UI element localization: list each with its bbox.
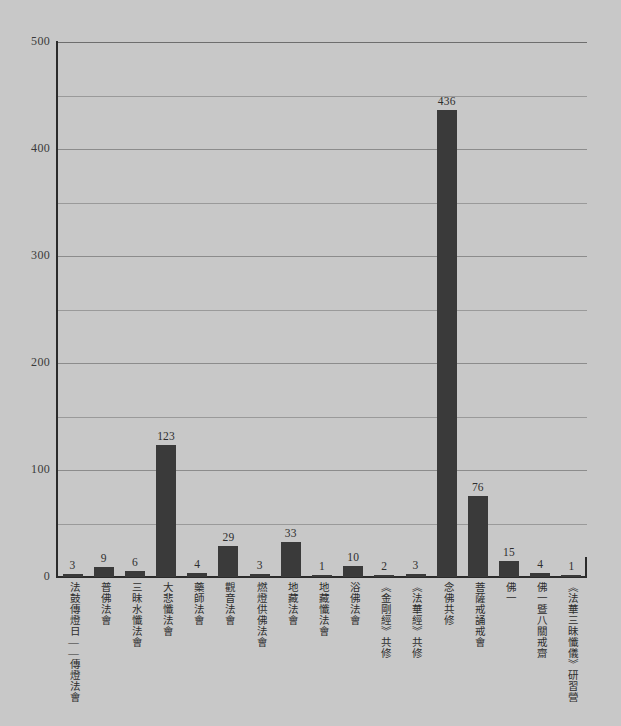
y-axis-tick-label-500: 500 xyxy=(2,34,50,49)
x-axis-label-text: 三昧水懺法會 xyxy=(129,582,140,648)
bar xyxy=(125,571,145,577)
y-axis-tick-label-0: 0 xyxy=(2,569,50,584)
x-axis-label-text: 藥師法會 xyxy=(192,582,203,626)
x-axis-label: 普佛法會 xyxy=(88,582,119,630)
x-axis-label: 佛一 xyxy=(493,582,524,608)
x-axis-label-text: 地藏懺法會 xyxy=(317,582,328,637)
bar xyxy=(406,574,426,577)
bar-value-label: 3 xyxy=(244,559,275,571)
x-axis-category-labels: 法鼓傳燈日——傳燈法會普佛法會三昧水懺法會大悲懺法會藥師法會觀音法會燃燈供佛法會… xyxy=(57,582,587,726)
bar xyxy=(63,574,83,577)
x-axis-label: 燃燈供佛法會 xyxy=(244,582,275,652)
bar xyxy=(250,574,270,577)
x-axis-label: 大悲懺法會 xyxy=(151,582,182,641)
y-axis-tick-label-200: 200 xyxy=(2,355,50,370)
bar-column: 2 xyxy=(369,42,400,577)
bar xyxy=(468,496,488,577)
y-axis-tick-label-300: 300 xyxy=(2,248,50,263)
bar-value-label: 436 xyxy=(431,95,462,107)
bar-column: 123 xyxy=(151,42,182,577)
bar-value-label: 76 xyxy=(462,481,493,493)
bar-series: 39612342933311023436761541 xyxy=(57,42,587,577)
x-axis-label-text: 地藏法會 xyxy=(285,582,296,626)
bar-column: 1 xyxy=(306,42,337,577)
x-axis-label: 地藏懺法會 xyxy=(306,582,337,641)
x-axis-label: 法鼓傳燈日——傳燈法會 xyxy=(57,582,88,707)
x-axis-label: 《金剛經》共修 xyxy=(369,582,400,663)
bar xyxy=(561,575,581,577)
bar-column: 6 xyxy=(119,42,150,577)
x-axis-label-text: 觀音法會 xyxy=(223,582,234,626)
bar-value-label: 1 xyxy=(306,560,337,572)
x-axis-label: 《法華三昧懺儀》研習營 xyxy=(556,582,587,707)
bar xyxy=(281,542,301,577)
y-axis-tick-labels: 0100200300400500 xyxy=(0,0,50,726)
bar-value-label: 10 xyxy=(338,551,369,563)
bar-column: 1 xyxy=(556,42,587,577)
bar-column: 76 xyxy=(462,42,493,577)
bar xyxy=(437,110,457,577)
bar xyxy=(312,575,332,577)
x-axis-label: 念佛共修 xyxy=(431,582,462,630)
x-axis-label: 菩薩戒誦戒會 xyxy=(462,582,493,652)
x-axis-label-text: 燃燈供佛法會 xyxy=(254,582,265,648)
bar-column: 4 xyxy=(182,42,213,577)
bar xyxy=(94,567,114,577)
x-axis-label-text: 浴佛法會 xyxy=(348,582,359,626)
bar-value-label: 9 xyxy=(88,552,119,564)
bar-column: 436 xyxy=(431,42,462,577)
bar-column: 3 xyxy=(244,42,275,577)
bar-chart: 0100200300400500 39612342933311023436761… xyxy=(0,0,621,726)
bar-column: 3 xyxy=(57,42,88,577)
bar-column: 15 xyxy=(493,42,524,577)
bar-value-label: 6 xyxy=(119,556,150,568)
bar-value-label: 3 xyxy=(57,559,88,571)
x-axis-label-text: 佛一暨八關戒齋 xyxy=(535,582,546,659)
x-axis-label-text: 法鼓傳燈日——傳燈法會 xyxy=(67,582,78,703)
y-axis-tick-label-100: 100 xyxy=(2,462,50,477)
bar-value-label: 4 xyxy=(182,558,213,570)
bar-value-label: 3 xyxy=(400,559,431,571)
x-axis-label-text: 《法華經》共修 xyxy=(410,582,421,659)
bar-column: 33 xyxy=(275,42,306,577)
bar-value-label: 123 xyxy=(151,430,182,442)
bar xyxy=(374,575,394,577)
bar-column: 4 xyxy=(525,42,556,577)
y-axis-tick-label-400: 400 xyxy=(2,141,50,156)
x-axis-label: 浴佛法會 xyxy=(338,582,369,630)
bar xyxy=(499,561,519,577)
x-axis-label-text: 菩薩戒誦戒會 xyxy=(472,582,483,648)
bar-column: 10 xyxy=(338,42,369,577)
bar xyxy=(156,445,176,577)
bar xyxy=(187,573,207,577)
x-axis-label-text: 念佛共修 xyxy=(441,582,452,626)
x-axis-label: 《法華經》共修 xyxy=(400,582,431,663)
x-axis-label: 地藏法會 xyxy=(275,582,306,630)
x-axis-label: 觀音法會 xyxy=(213,582,244,630)
x-axis-label-text: 《法華三昧懺儀》研習營 xyxy=(566,582,577,703)
x-axis-label: 三昧水懺法會 xyxy=(119,582,150,652)
x-axis-label-text: 普佛法會 xyxy=(98,582,109,626)
bar-value-label: 4 xyxy=(525,558,556,570)
bar-value-label: 33 xyxy=(275,527,306,539)
x-axis-label: 藥師法會 xyxy=(182,582,213,630)
bar-column: 29 xyxy=(213,42,244,577)
bar-value-label: 15 xyxy=(493,546,524,558)
bar-column: 3 xyxy=(400,42,431,577)
bar xyxy=(343,566,363,577)
x-axis-label-text: 《金剛經》共修 xyxy=(379,582,390,659)
bar-value-label: 2 xyxy=(369,560,400,572)
x-axis-label-text: 大悲懺法會 xyxy=(161,582,172,637)
bar-value-label: 1 xyxy=(556,560,587,572)
bar-column: 9 xyxy=(88,42,119,577)
bar xyxy=(530,573,550,577)
bar-value-label: 29 xyxy=(213,531,244,543)
x-axis-label: 佛一暨八關戒齋 xyxy=(525,582,556,663)
x-axis-label-text: 佛一 xyxy=(504,582,515,604)
bar xyxy=(218,546,238,577)
